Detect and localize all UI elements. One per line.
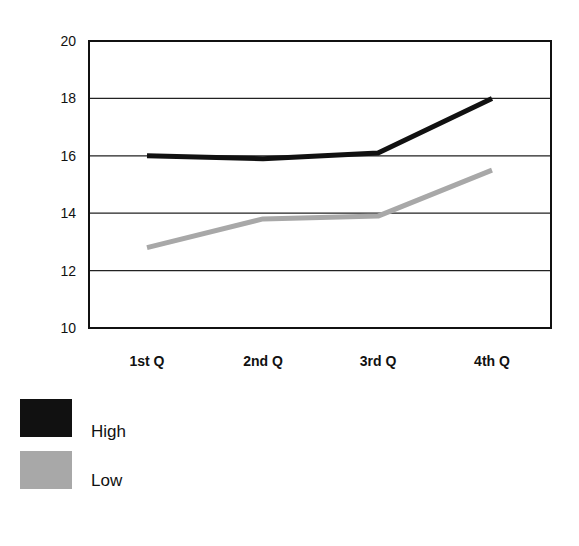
series-line-low (147, 170, 492, 248)
y-tick-label: 20 (60, 33, 76, 49)
x-tick-label: 1st Q (129, 353, 164, 369)
x-tick-label: 4th Q (474, 353, 510, 369)
legend-label-low: Low (91, 471, 122, 491)
series-line-high (147, 98, 492, 158)
y-axis-ticks: 101214161820 (60, 33, 76, 336)
legend-swatch-high (20, 399, 72, 437)
data-series (147, 98, 492, 247)
legend-swatch-low (20, 451, 72, 489)
legend-label-high: High (91, 422, 126, 442)
y-tick-label: 12 (60, 263, 76, 279)
x-tick-label: 2nd Q (243, 353, 283, 369)
plot-frame (89, 41, 551, 328)
x-tick-label: 3rd Q (360, 353, 397, 369)
y-tick-label: 10 (60, 320, 76, 336)
x-axis-ticks: 1st Q2nd Q3rd Q4th Q (129, 353, 510, 369)
line-chart: 101214161820 1st Q2nd Q3rd Q4th Q (0, 0, 579, 390)
y-tick-label: 14 (60, 205, 76, 221)
y-tick-label: 18 (60, 90, 76, 106)
y-tick-label: 16 (60, 148, 76, 164)
